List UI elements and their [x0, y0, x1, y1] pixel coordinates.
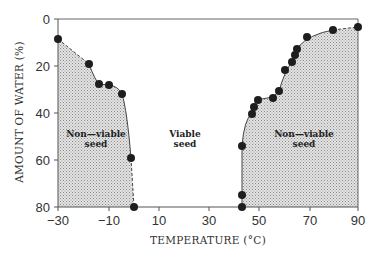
- right-region-label-1: Non—viable: [274, 129, 334, 139]
- svg-text:−30: −30: [47, 213, 69, 228]
- svg-text:30: 30: [202, 213, 216, 228]
- x-axis-title: TEMPERATURE (°C): [150, 234, 266, 246]
- center-region-label-1: Viable: [168, 129, 201, 139]
- svg-text:0: 0: [43, 12, 50, 27]
- svg-text:60: 60: [36, 153, 50, 168]
- y-tick-labels: 0 20 40 60 80: [36, 12, 50, 215]
- left-nonviable-region: [58, 39, 134, 207]
- svg-text:90: 90: [351, 213, 365, 228]
- y-axis-title: AMOUNT OF WATER (%): [13, 41, 25, 184]
- x-tick-labels: −30 −10 10 30 50 70 90: [47, 213, 365, 228]
- svg-text:40: 40: [36, 106, 50, 121]
- svg-text:50: 50: [252, 213, 266, 228]
- right-nonviable-region: [242, 27, 358, 207]
- svg-text:−10: −10: [98, 213, 120, 228]
- y-ticks: [54, 19, 58, 207]
- chart: 0 20 40 60 80 −30 −10 10 30 50 70 90 AMO…: [0, 0, 383, 257]
- svg-text:20: 20: [36, 59, 50, 74]
- left-region-label-1: Non—viable: [66, 129, 126, 139]
- center-region-label-2: seed: [174, 139, 198, 149]
- x-ticks: [58, 207, 358, 211]
- svg-text:10: 10: [152, 213, 166, 228]
- left-region-label-2: seed: [85, 139, 109, 149]
- right-region-label-2: seed: [293, 139, 317, 149]
- svg-text:70: 70: [303, 213, 317, 228]
